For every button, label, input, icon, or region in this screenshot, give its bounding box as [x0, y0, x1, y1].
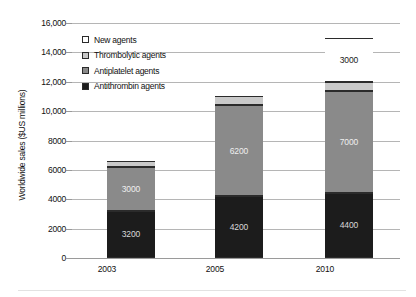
bar-segment-thrombolytic-2005[interactable] — [215, 96, 263, 105]
legend-swatch-icon — [82, 52, 89, 59]
bar-value-label: 3000 — [122, 185, 141, 194]
y-tick-label-16000: 16,000 — [6, 18, 66, 28]
bar-value-label: 4400 — [340, 221, 359, 230]
scan-artifact-line — [18, 290, 406, 291]
bar-segment-antiplatelet-2003[interactable]: 3000 — [107, 167, 155, 211]
x-tick-label-2003: 2003 — [67, 264, 147, 274]
legend-item-label: Antithrombin agents — [94, 81, 165, 91]
legend-swatch-icon — [82, 36, 89, 43]
bar-value-label: 6200 — [230, 147, 249, 156]
legend-swatch-icon — [82, 67, 89, 74]
bar-chart: Worldwide sales ($US millions) 16,000 14… — [0, 0, 416, 297]
y-tick-label-6000: 6000 — [6, 165, 66, 175]
bar-segment-antithrombin-2003[interactable]: 3200 — [107, 211, 155, 258]
y-tick-label-0: 0 — [6, 253, 66, 263]
legend-swatch-icon — [82, 83, 89, 90]
legend-item-antithrombin-agents[interactable]: Antithrombin agents — [82, 81, 166, 92]
y-axis-ticks: 16,000 14,000 12,000 10,000 8000 6000 40… — [0, 23, 72, 258]
bar-segment-antithrombin-2010[interactable]: 4400 — [325, 193, 373, 258]
x-tick-label-2010: 2010 — [285, 264, 365, 274]
y-tick-label-12000: 12,000 — [6, 77, 66, 87]
legend-item-thrombolytic-agents[interactable]: Thrombolytic agents — [82, 50, 166, 61]
bar-value-label: 3000 — [340, 56, 359, 65]
legend: New agents Thrombolytic agents Antiplate… — [82, 34, 166, 92]
bar-segment-new-agents-2010[interactable]: 3000 — [325, 38, 373, 82]
bar-value-label: 3200 — [122, 230, 141, 239]
legend-item-antiplatelet-agents[interactable]: Antiplatelet agents — [82, 65, 166, 76]
bar-2010[interactable]: 4400 7000 3000 — [325, 38, 373, 258]
legend-item-label: Thrombolytic agents — [94, 50, 166, 60]
legend-item-new-agents[interactable]: New agents — [82, 34, 166, 45]
bar-value-label: 7000 — [340, 138, 359, 147]
gridline-16000 — [72, 23, 400, 24]
y-tick-label-10000: 10,000 — [6, 106, 66, 116]
bar-segment-antiplatelet-2005[interactable]: 6200 — [215, 105, 263, 196]
x-axis-line — [72, 258, 400, 259]
legend-item-label: Antiplatelet agents — [94, 66, 159, 76]
y-tick-label-4000: 4000 — [6, 194, 66, 204]
bar-segment-antiplatelet-2010[interactable]: 7000 — [325, 91, 373, 194]
y-tick-label-8000: 8000 — [6, 136, 66, 146]
legend-item-label: New agents — [94, 35, 136, 45]
bar-value-label: 4200 — [230, 223, 249, 232]
y-tick-label-2000: 2000 — [6, 224, 66, 234]
bar-segment-antithrombin-2005[interactable]: 4200 — [215, 196, 263, 258]
y-tick-label-14000: 14,000 — [6, 47, 66, 57]
bar-segment-thrombolytic-2010[interactable] — [325, 82, 373, 91]
x-tick-label-2005: 2005 — [175, 264, 255, 274]
bar-segment-thrombolytic-2003[interactable] — [107, 161, 155, 167]
bar-2003[interactable]: 3200 3000 — [107, 161, 155, 258]
bar-2005[interactable]: 4200 6200 — [215, 96, 263, 258]
